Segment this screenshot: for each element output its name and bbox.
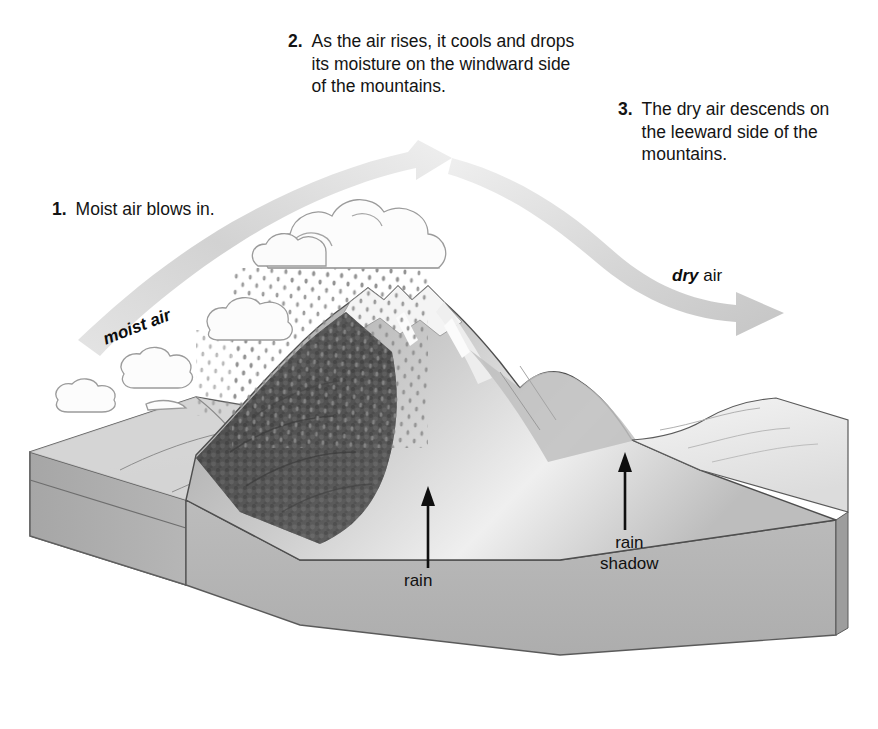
rain-shadow-label-line1: rain xyxy=(600,532,659,553)
rain-shadow-label-line2: shadow xyxy=(600,553,659,574)
rain-label: rain xyxy=(404,570,432,591)
callout-2-number: 2. xyxy=(288,30,303,53)
cloud-low-icon xyxy=(121,347,192,388)
callout-3-number: 3. xyxy=(618,98,633,121)
dry-air-label-emphasis: dry xyxy=(672,266,698,285)
rain-shadow-label: rain shadow xyxy=(600,532,659,574)
rain-shadow-diagram: 1. Moist air blows in. 2. As the air ris… xyxy=(0,0,878,729)
dry-air-arrow-icon xyxy=(448,158,784,336)
dry-air-label: dry air xyxy=(672,266,722,286)
callout-1-number: 1. xyxy=(52,198,67,221)
cloud-far-left-icon xyxy=(56,379,115,412)
callout-2-text: As the air rises, it cools and drops its… xyxy=(312,30,588,98)
cloud-mid-icon xyxy=(207,298,292,340)
callout-1: 1. Moist air blows in. xyxy=(52,198,302,221)
callout-3: 3. The dry air descends on the leeward s… xyxy=(618,98,858,166)
dry-air-label-rest: air xyxy=(698,266,722,285)
callout-1-text: Moist air blows in. xyxy=(76,198,302,221)
callout-3-text: The dry air descends on the leeward side… xyxy=(642,98,858,166)
callout-2: 2. As the air rises, it cools and drops … xyxy=(288,30,588,98)
